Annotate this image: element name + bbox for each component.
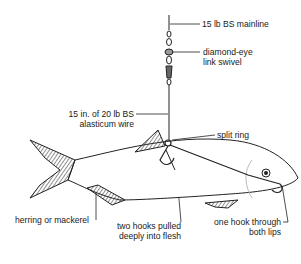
label-hook-lips-line1: one hook through [198, 217, 281, 227]
label-hooks-body-line2: deeply into flesh [100, 231, 181, 241]
swivel-icon [165, 31, 173, 85]
label-split-ring: split ring [217, 130, 249, 140]
label-mainline: 15 lb BS mainline [202, 19, 269, 29]
label-swivel-line1: diamond-eye [203, 47, 253, 57]
label-wire-line1: 15 in. of 20 lb BS [60, 109, 134, 119]
label-hook-lips-line2: both lips [198, 227, 281, 237]
label-hooks-body-line1: two hooks pulled [100, 221, 181, 231]
label-wire-line2: alasticum wire [60, 119, 134, 129]
label-bait: herring or mackerel [15, 215, 89, 225]
label-swivel-line2: link swivel [203, 57, 242, 67]
bait-fish [30, 130, 298, 208]
